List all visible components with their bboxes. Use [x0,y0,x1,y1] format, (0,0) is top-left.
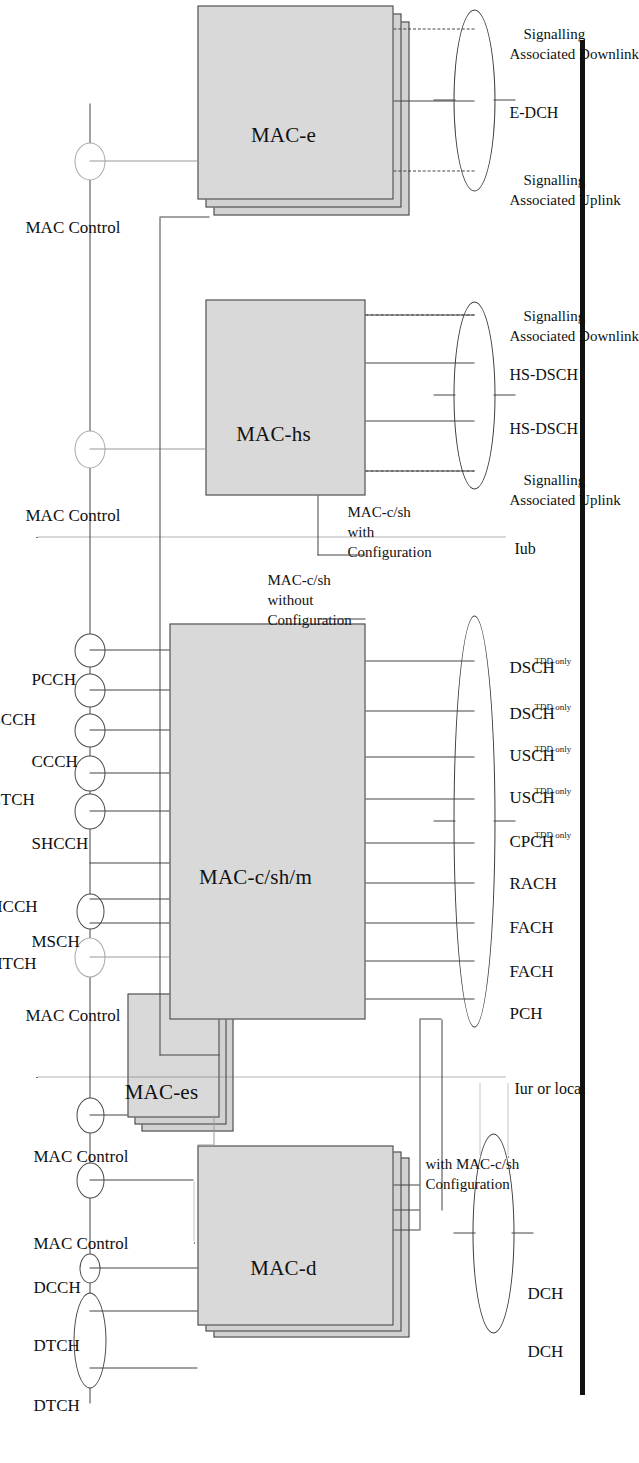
tc-leg-pch [366,998,475,999]
mac-c-sh-m-label: MAC-c/sh/m [199,865,312,890]
macd-down-1 [394,1229,420,1230]
mac-architecture-diagram: DTCH DTCH DCCH MAC Control MAC Control M… [18,40,578,1423]
conn-mtch-csh [90,922,170,923]
note-dsch2-tdd: TDD only [535,655,572,665]
mac-d-box[interactable]: MAC-d [198,1145,394,1325]
label-mac-control-e: MAC Control [26,217,121,237]
label-pch: PCH [510,1003,543,1023]
dch-stub-bottom [512,1232,534,1233]
label-mtch: MTCH [0,953,37,973]
note-usch1-tdd: TDD only [535,785,572,795]
label-e-assoc-uplink-1: Associated Uplink [510,191,621,208]
label-e-assoc-downlink-1: Associated Downlink [510,45,639,62]
label-e-assoc-downlink-2: Signalling [524,25,586,42]
mac-es-label: MAC-es [124,1079,198,1104]
mac-e-box[interactable]: MAC-e [198,5,394,199]
macd-down-3 [394,1184,420,1185]
label-dtch-1: DTCH [34,1335,80,1355]
hs-leg-hs-dsch-1 [366,420,475,421]
hs-ellipse-stub-top [434,394,456,395]
cfg-without-v [318,618,366,619]
tc-leg-rach [366,882,475,883]
conn-pcch-csh [90,649,170,650]
label-dtch-2: DTCH [34,1395,80,1415]
macd-down-2 [394,1209,420,1210]
conn-dtch2-mac-d [90,1367,198,1368]
note-cpch-tdd: TDD only [535,829,572,839]
label-mac-control-d: MAC Control [34,1233,129,1253]
label-shcch: SHCCH [32,833,89,853]
conn-ctch-csh [90,772,170,773]
label-mac-control-hs: MAC Control [26,505,121,525]
common-transport-ellipse [454,615,496,1027]
tc-leg-usch-1 [366,798,475,799]
common-ellipse-stub-top [434,820,456,821]
label-bcch: BCCH [0,709,36,729]
conn-mac-es-mac-d-v [198,1144,214,1145]
mac-c-sh-m-box[interactable]: MAC-c/sh/m [170,623,366,1019]
mac-e-label: MAC-e [250,122,315,147]
conn-mac-es-mac-e-v1 [160,1054,220,1055]
label-rach: RACH [510,873,557,893]
label-fach-2: FACH [510,917,554,937]
label-pcch: PCCH [32,669,76,689]
label-config-without-2: without [268,591,314,608]
conn-dtch1-mac-d [90,1310,198,1311]
e-leg-e-dch [394,100,475,101]
label-dch-2: DCH [528,1341,564,1361]
conn-mac-control-csh-drop [90,956,170,957]
conn-dcch-mac-d [90,1267,198,1268]
conn-ccch-csh [90,729,170,730]
conn-mac-control-es-drop [90,1114,128,1115]
label-msch: MSCH [32,931,80,951]
tc-leg-dsch-2 [366,660,475,661]
label-ctch: CTCH [0,789,35,809]
conn-mac-control-e-drop [90,160,198,161]
mac-hs-label: MAC-hs [236,422,311,447]
conn-macd-csh-a [420,1019,421,1230]
label-e-assoc-uplink-2: Signalling [524,171,586,188]
label-hs-dsch-2: HS-DSCH [510,365,578,383]
label-config-with-csh-top-2: with MAC-c/sh [426,1155,520,1172]
label-mac-control-es: MAC Control [34,1146,129,1166]
hs-dash-downlink [366,314,475,315]
note-dsch1-tdd: TDD only [535,701,572,711]
iub-separator [36,536,506,537]
label-config-without-3: MAC-c/sh [268,571,331,588]
conn-mac-d-dch-2 [508,1083,509,1157]
label-config-with-1: Configuration [348,543,432,560]
label-hs-assoc-uplink-1: Associated Uplink [510,491,621,508]
common-ellipse-stub-bottom [494,820,516,821]
hs-transport-ellipse [454,301,496,489]
conn-mac-es-mac-e [160,217,161,1055]
tc-leg-cpch [366,842,475,843]
label-iur-or-local: Iur or local [515,1079,586,1097]
tc-leg-dsch-1 [366,710,475,711]
label-dcch: DCCH [34,1277,81,1297]
label-fach-1: FACH [510,961,554,981]
e-ellipse-stub-bottom [494,99,516,100]
label-mac-control-csh: MAC Control [26,1005,121,1025]
hs-dash-uplink [366,470,475,471]
e-dash-downlink [394,28,475,29]
tc-leg-fach-2 [366,922,475,923]
hs-ellipse-stub-bottom [494,394,516,395]
mac-hs-box[interactable]: MAC-hs [206,299,366,495]
conn-macd-csh-join [420,1018,442,1019]
label-dch-1: DCH [528,1283,564,1303]
tc-leg-usch-2 [366,756,475,757]
conn-mac-control-hs-drop [90,448,206,449]
logical-channel-bus [90,103,91,1403]
label-iub: Iub [515,539,536,557]
label-mcch: MCCH [0,896,38,916]
label-config-with-csh-top-1: Configuration [426,1175,510,1192]
e-dash-uplink [394,170,475,171]
conn-mac-es-mac-d-h [214,1115,215,1145]
mac-d-label: MAC-d [250,1256,316,1281]
conn-msch-csh [90,862,170,863]
conn-mcch-csh [90,898,170,899]
label-config-with-3: MAC-c/sh [348,503,411,520]
label-hs-assoc-downlink-2: Signalling [524,307,586,324]
